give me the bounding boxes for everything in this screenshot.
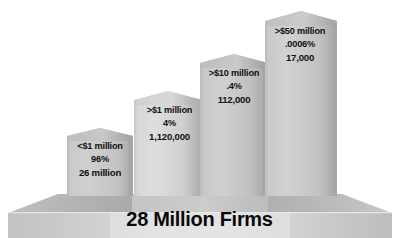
- bar-percent-label: 4%: [131, 117, 208, 130]
- bar-percent-label: .4%: [195, 80, 273, 93]
- bar-percent-label: .0006%: [259, 38, 341, 51]
- bar-count-label: 1,120,000: [131, 130, 208, 144]
- bar-label-over-50-million: >$50 million .0006% 17,000: [259, 25, 341, 65]
- bar-label-over-10-million: >$10 million .4% 112,000: [195, 67, 273, 107]
- bar-count-label: 112,000: [195, 93, 273, 107]
- bar-category-label: >$50 million: [259, 25, 341, 38]
- bar-percent-label: 96%: [62, 153, 138, 166]
- bar-category-label: <$1 million: [62, 140, 138, 153]
- bar-over-10-million-cap: [200, 54, 268, 68]
- bar-label-over-1-million: >$1 million 4% 1,120,000: [131, 104, 208, 144]
- bar-over-50-million-cap: [265, 11, 337, 26]
- bar-over-1-million-cap: [134, 91, 202, 105]
- bar-count-label: 26 million: [62, 166, 138, 180]
- bar-count-label: 17,000: [259, 51, 341, 65]
- bar-chart-28-million-firms: <$1 million 96% 26 million >$1 million 4…: [0, 0, 399, 238]
- chart-title: 28 Million Firms: [0, 209, 399, 229]
- bar-category-label: >$10 million: [195, 67, 273, 80]
- bar-label-under-1-million: <$1 million 96% 26 million: [62, 140, 138, 180]
